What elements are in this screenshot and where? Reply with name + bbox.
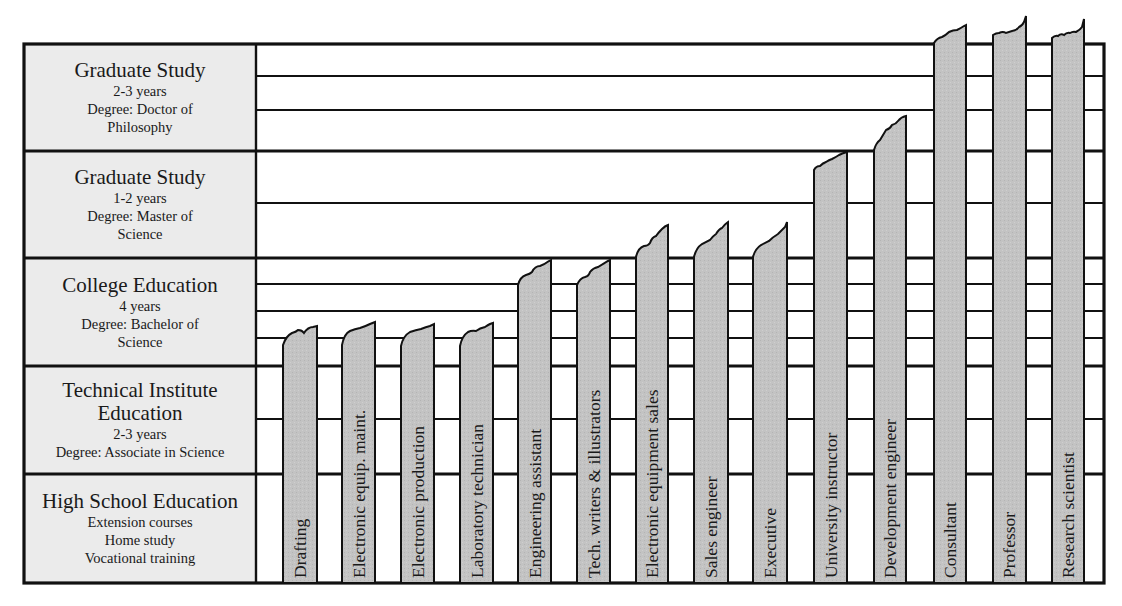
bar-label: Professor — [999, 512, 1019, 578]
bar-label: Executive — [760, 508, 780, 578]
bar-professor — [993, 16, 1026, 583]
bar-label: Development engineer — [880, 419, 900, 578]
career-bars — [283, 16, 1084, 583]
bar-label: Laboratory technician — [467, 424, 487, 578]
bar-label: Tech. writers & illustrators — [584, 389, 604, 578]
bar-label: Research scientist — [1058, 452, 1078, 578]
bar-label: Electronic equip. maint. — [349, 410, 369, 578]
bar-label: Electronic production — [408, 426, 428, 578]
bar-label: University instructor — [821, 433, 841, 578]
career-education-diagram: Drafting Electronic equip. maint. Electr… — [0, 0, 1122, 606]
bar-label: Drafting — [290, 518, 310, 578]
bar-label: Engineering assistant — [525, 429, 545, 578]
bar-label: Electronic equipment sales — [642, 389, 662, 578]
bar-label: Consultant — [940, 502, 960, 578]
bar-label: Sales engineer — [701, 476, 721, 578]
bar-consultant — [934, 25, 966, 583]
